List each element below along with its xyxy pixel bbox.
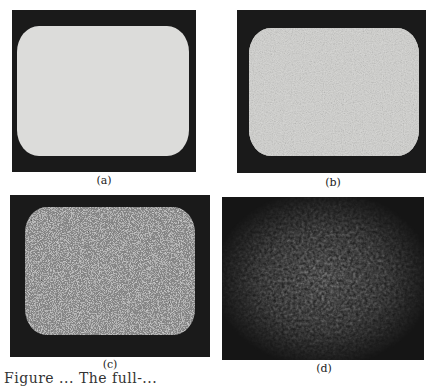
dim-noise-texture: [222, 197, 424, 360]
panel-a-frame: [12, 10, 196, 172]
panel-a-label: (a): [84, 174, 124, 187]
figure-caption: Figure ... The full-...: [4, 370, 157, 386]
fine-noise-texture: [249, 28, 419, 156]
panel-d-frame: [222, 197, 424, 360]
panel-d-label: (d): [304, 362, 344, 375]
panel-c-screen: [25, 207, 195, 335]
panel-b-screen: [249, 28, 419, 156]
panel-a-screen: [17, 26, 189, 156]
panel-b-label: (b): [313, 176, 353, 189]
speckle-noise-texture: [25, 207, 195, 335]
panel-b-frame: [237, 10, 426, 173]
panel-c-frame: [10, 195, 210, 357]
